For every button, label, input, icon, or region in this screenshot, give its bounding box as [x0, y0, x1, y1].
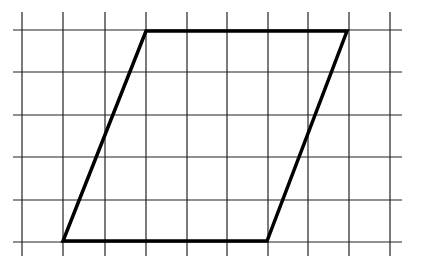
grid-figure	[0, 0, 427, 268]
